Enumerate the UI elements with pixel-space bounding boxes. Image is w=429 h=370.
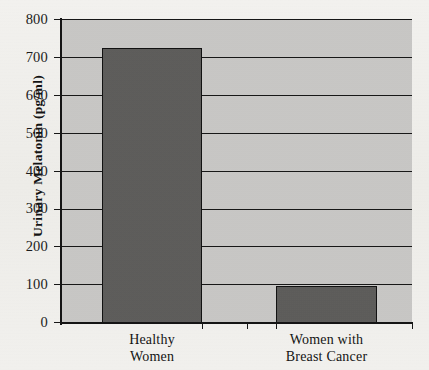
bar-texture bbox=[277, 287, 376, 322]
x-tick-mark-0 bbox=[202, 323, 203, 329]
category-label-0-line-0: Healthy bbox=[72, 331, 232, 348]
category-label-1-line-1: Breast Cancer bbox=[247, 348, 407, 365]
y-tick-mark-400 bbox=[54, 171, 61, 172]
y-tick-mark-0 bbox=[54, 322, 61, 323]
category-label-0-line-1: Women bbox=[72, 348, 232, 365]
category-label-1[interactable]: Women withBreast Cancer bbox=[247, 331, 407, 365]
y-tick-mark-800 bbox=[54, 19, 61, 20]
bar-texture bbox=[103, 49, 201, 322]
category-label-1-line-0: Women with bbox=[247, 331, 407, 348]
x-tick-mark-1 bbox=[247, 323, 248, 329]
x-tick-mark-2 bbox=[276, 323, 277, 329]
y-tick-label-100: 100 bbox=[26, 276, 48, 293]
y-axis-title: Urinary Melatonin (pg/ml) bbox=[30, 56, 46, 256]
bar-0[interactable] bbox=[102, 48, 202, 323]
gridline-800 bbox=[61, 19, 412, 20]
y-tick-mark-100 bbox=[54, 284, 61, 285]
y-tick-label-0: 0 bbox=[41, 314, 48, 331]
plot-area bbox=[61, 20, 412, 323]
y-tick-mark-300 bbox=[54, 209, 61, 210]
y-tick-mark-600 bbox=[54, 95, 61, 96]
bar-chart-figure: 0100200300400500600700800 Urinary Melato… bbox=[0, 0, 429, 370]
bar-1[interactable] bbox=[276, 286, 377, 323]
category-label-0[interactable]: HealthyWomen bbox=[72, 331, 232, 365]
y-tick-label-800: 800 bbox=[26, 11, 48, 28]
y-tick-mark-200 bbox=[54, 246, 61, 247]
x-axis-line bbox=[60, 322, 413, 324]
x-tick-mark-3 bbox=[412, 323, 413, 329]
y-tick-mark-700 bbox=[54, 57, 61, 58]
y-tick-mark-500 bbox=[54, 133, 61, 134]
